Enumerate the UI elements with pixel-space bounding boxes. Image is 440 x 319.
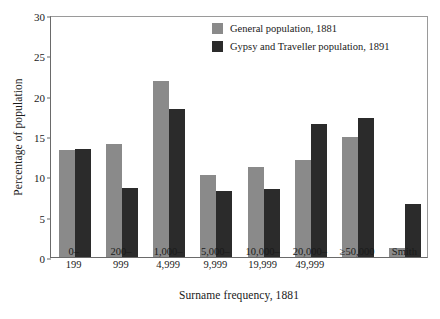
bar [200, 175, 216, 257]
legend-swatch-icon [212, 23, 223, 34]
y-axis-tick-label: 15 [11, 132, 51, 144]
bar [106, 144, 122, 257]
legend-swatch-icon [212, 41, 223, 52]
legend-item: Gypsy and Traveller population, 1891 [212, 39, 390, 54]
legend-item-label: General population, 1881 [230, 23, 337, 34]
bar-group [106, 17, 138, 257]
bar-group [389, 17, 421, 257]
bar [59, 150, 75, 257]
legend-item: General population, 1881 [212, 21, 390, 36]
bar [358, 118, 374, 257]
bar [75, 149, 91, 257]
legend-item-label: Gypsy and Traveller population, 1891 [230, 41, 390, 52]
bar [169, 109, 185, 257]
bar [295, 160, 311, 257]
y-axis-tick-label: 20 [11, 92, 51, 104]
x-axis-tick-label: Smith [361, 246, 440, 259]
y-axis-tick-label: 30 [11, 11, 51, 23]
bar-chart: Percentage of population 051015202530 0–… [0, 0, 440, 319]
bar-group [59, 17, 91, 257]
y-axis-tick-label: 25 [11, 51, 51, 63]
y-axis-tick-label: 5 [11, 213, 51, 225]
bar [311, 124, 327, 257]
bar-group [153, 17, 185, 257]
bar [248, 167, 264, 257]
legend: General population, 1881Gypsy and Travel… [212, 21, 390, 57]
x-axis-title: Surname frequency, 1881 [50, 289, 428, 301]
y-axis-tick-label: 10 [11, 172, 51, 184]
bar [153, 81, 169, 257]
bar [342, 137, 358, 257]
